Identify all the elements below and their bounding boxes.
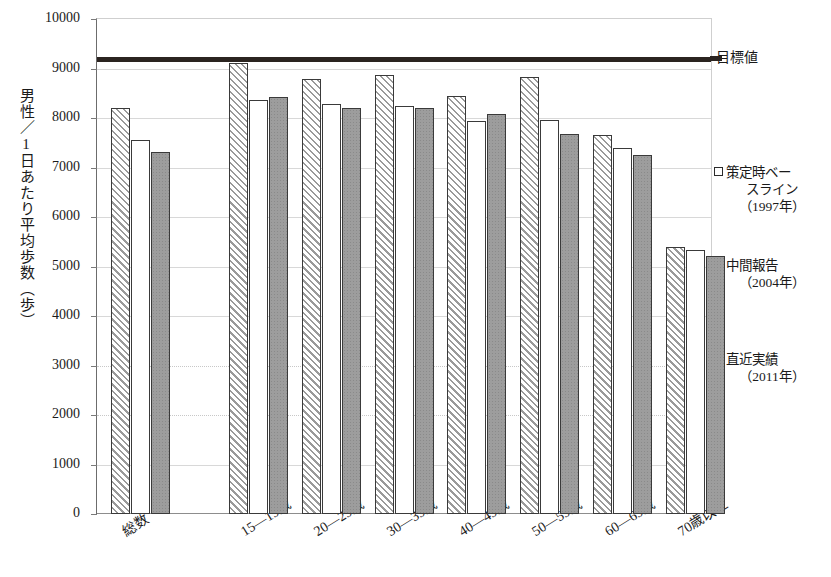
y-tick-label: 9000 — [24, 60, 80, 76]
chart-legend: 目標値 策定時ベースライン（1997年）中間報告（2004年）直近実績（2011… — [712, 0, 831, 577]
bar — [447, 96, 466, 514]
bar — [613, 148, 632, 514]
bar-group — [229, 19, 288, 514]
bar — [111, 108, 130, 514]
bar-group — [375, 19, 434, 514]
bar — [540, 120, 559, 515]
y-tick-label: 6000 — [24, 208, 80, 224]
bar — [560, 134, 579, 514]
legend-entry-label-text: 策定時ベー — [726, 165, 791, 180]
y-tick-label: 2000 — [24, 406, 80, 422]
bar — [131, 140, 150, 514]
y-tick-label: 1000 — [24, 456, 80, 472]
target-reference-line-extension — [710, 56, 722, 61]
legend-entry-label: 中間報告 — [714, 258, 830, 275]
y-tick-label: 10000 — [24, 10, 80, 26]
legend-entry: 策定時ベースライン（1997年） — [714, 165, 830, 216]
bar-group — [302, 19, 361, 514]
y-tick-label: 8000 — [24, 109, 80, 125]
legend-entry-label-text: 中間報告 — [726, 258, 778, 273]
y-tick-label: 7000 — [24, 159, 80, 175]
legend-entry-label-cont: スライン — [714, 182, 830, 199]
bar — [487, 114, 506, 514]
bar — [395, 106, 414, 514]
bar-group — [111, 19, 170, 514]
bar — [302, 79, 321, 514]
bar — [322, 104, 341, 514]
y-tick-label: 0 — [24, 505, 80, 521]
bar — [375, 75, 394, 514]
legend-entry-label-text: 直近実績 — [726, 352, 778, 367]
bar — [151, 152, 170, 514]
bar — [229, 63, 248, 514]
bar — [342, 108, 361, 514]
bar-chart: 男性／1日あたり平均歩数（歩） 100009000800070006000500… — [0, 0, 831, 577]
bar — [249, 100, 268, 514]
target-reference-line — [97, 57, 711, 62]
legend-entry-year: （1997年） — [714, 199, 830, 216]
bar-group — [520, 19, 579, 514]
bar — [666, 247, 685, 514]
bar-group — [447, 19, 506, 514]
y-tick-label: 3000 — [24, 357, 80, 373]
bar — [593, 135, 612, 514]
bar-group — [666, 19, 725, 514]
legend-entry-label: 策定時ベー — [714, 165, 830, 182]
y-axis-tick-labels: 1000090008000700060005000400030002000100… — [22, 0, 80, 577]
bar-group — [593, 19, 652, 514]
legend-entry-year: （2004年） — [714, 275, 830, 292]
bar — [467, 121, 486, 514]
legend-entry: 直近実績（2011年） — [714, 352, 830, 386]
bar — [633, 155, 652, 514]
bar — [520, 77, 539, 514]
bars-layer — [97, 19, 711, 514]
y-tick-label: 4000 — [24, 307, 80, 323]
y-tick-label: 5000 — [24, 258, 80, 274]
bar — [415, 108, 434, 514]
legend-entry-label: 直近実績 — [714, 352, 830, 369]
bar — [706, 256, 725, 514]
legend-entry: 中間報告（2004年） — [714, 258, 830, 292]
bar — [269, 97, 288, 514]
plot-area — [96, 18, 712, 514]
bar — [686, 250, 705, 514]
x-axis-tick-labels: 総数15—19歳20—29歳30—39歳40—49歳50—59歳60—69歳70… — [96, 513, 710, 577]
legend-entry-year: （2011年） — [714, 369, 830, 386]
